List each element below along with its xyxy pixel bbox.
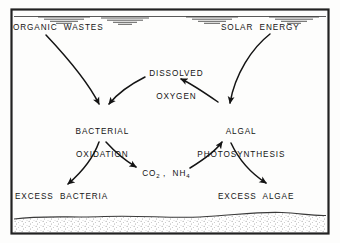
label-dissolved-oxygen-line1: DISSOLVED [149,69,203,78]
diagram-figure: ORGANIC WASTES SOLAR ENERGY DISSOLVED OX… [0,0,340,243]
arrow-solar-energy-to-algal-photosynthesis [230,34,270,103]
label-algal-photosynthesis: ALGAL PHOTOSYNTHESIS [177,114,293,172]
pond-bottom-sediment [14,212,326,232]
label-excess-bacteria: EXCESS BACTERIA [15,192,133,203]
label-co2-formula: CO [142,169,156,178]
arrow-organic-wastes-to-bacterial-oxidation [46,35,99,104]
label-algal-photosynthesis-line1: ALGAL [226,127,257,136]
label-bacterial-oxidation-line2: OXIDATION [76,150,129,159]
label-algal-photosynthesis-line2: PHOTOSYNTHESIS [197,150,285,159]
label-bacterial-oxidation: BACTERIAL OXIDATION [50,114,142,172]
label-co2-nh4: CO2 , NH4 [125,169,207,182]
label-dissolved-oxygen-line2: OXYGEN [156,92,196,101]
label-nh4-subscript: 4 [186,173,190,179]
label-formula-separator: , [160,169,173,178]
label-solar-energy: SOLAR ENERGY [221,23,331,34]
label-nh4-formula: NH [173,169,187,178]
label-excess-algae: EXCESS ALGAE [218,192,330,203]
label-organic-wastes: ORGANIC WASTES [13,23,123,34]
label-bacterial-oxidation-line1: BACTERIAL [76,127,130,136]
label-dissolved-oxygen: DISSOLVED OXYGEN [128,56,212,114]
